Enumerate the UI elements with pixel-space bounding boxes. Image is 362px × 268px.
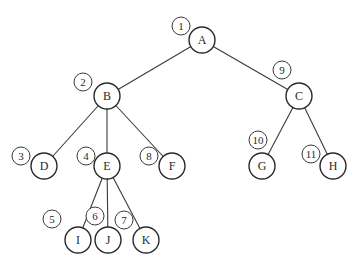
edge-b-d xyxy=(44,96,107,166)
visit-order-badge-11: 11 xyxy=(302,145,320,163)
nodes-layer: ABCDEFGHIJK xyxy=(31,27,346,253)
node-label: E xyxy=(103,159,110,173)
tree-node-b: B xyxy=(94,83,120,109)
visit-order-badge-5: 5 xyxy=(43,210,61,228)
order-number: 9 xyxy=(279,64,285,76)
tree-node-d: D xyxy=(31,153,57,179)
visit-order-badge-3: 3 xyxy=(12,147,30,165)
order-number: 8 xyxy=(146,150,152,162)
visit-order-badge-4: 4 xyxy=(77,147,95,165)
tree-node-k: K xyxy=(133,227,159,253)
edge-a-b xyxy=(107,40,202,96)
tree-node-c: C xyxy=(286,83,312,109)
tree-node-j: J xyxy=(95,227,121,253)
order-number: 11 xyxy=(306,148,317,160)
edge-b-f xyxy=(107,96,172,166)
tree-node-a: A xyxy=(189,27,215,53)
visit-order-badge-2: 2 xyxy=(74,73,92,91)
tree-node-e: E xyxy=(94,153,120,179)
tree-node-g: G xyxy=(249,153,275,179)
node-label: H xyxy=(329,159,338,173)
node-label: C xyxy=(295,89,303,103)
visit-order-badge-6: 6 xyxy=(86,207,104,225)
visit-order-badge-8: 8 xyxy=(140,147,158,165)
tree-node-i: I xyxy=(65,227,91,253)
tree-diagram: ABCDEFGHIJK 1293481011567 xyxy=(0,0,362,268)
node-label: J xyxy=(106,233,111,247)
order-number: 2 xyxy=(80,76,86,88)
node-label: D xyxy=(40,159,49,173)
visit-order-badge-7: 7 xyxy=(115,211,133,229)
order-number: 6 xyxy=(92,210,98,222)
order-number: 5 xyxy=(49,213,55,225)
node-label: B xyxy=(103,89,111,103)
visit-order-badge-1: 1 xyxy=(172,17,190,35)
visit-order-badge-9: 9 xyxy=(273,61,291,79)
node-label: G xyxy=(258,159,267,173)
node-label: K xyxy=(142,233,151,247)
order-number: 1 xyxy=(178,20,184,32)
visit-order-badge-10: 10 xyxy=(249,131,267,149)
order-number: 7 xyxy=(121,214,127,226)
order-labels-layer: 1293481011567 xyxy=(12,17,320,229)
tree-node-f: F xyxy=(159,153,185,179)
node-label: I xyxy=(76,233,80,247)
order-number: 4 xyxy=(83,150,89,162)
tree-node-h: H xyxy=(320,153,346,179)
order-number: 3 xyxy=(18,150,24,162)
order-number: 10 xyxy=(253,134,265,146)
node-label: F xyxy=(169,159,176,173)
node-label: A xyxy=(198,33,207,47)
